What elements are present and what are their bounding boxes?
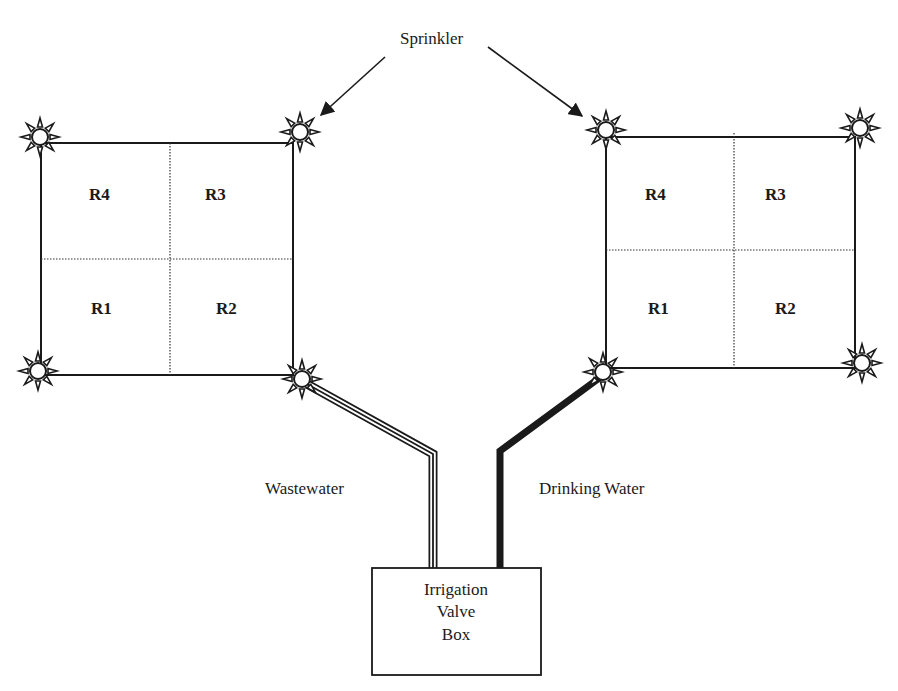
drinking-water-label: Drinking Water <box>539 479 645 498</box>
region-r4: R4 <box>89 185 110 204</box>
sprinkler-icon <box>281 113 319 151</box>
region-r3: R3 <box>765 185 786 204</box>
sprinkler-arrow-right <box>488 47 582 116</box>
region-r1: R1 <box>648 299 669 318</box>
region-r2: R2 <box>216 299 237 318</box>
sprinkler-icon <box>584 353 622 391</box>
region-r2: R2 <box>775 299 796 318</box>
sprinkler-arrow-left <box>321 57 385 115</box>
drinking-water-pipe <box>500 376 602 568</box>
plot-frame <box>606 137 855 368</box>
region-r1: R1 <box>91 299 112 318</box>
region-r3: R3 <box>205 185 226 204</box>
wastewater-plot: R4 R3 R1 R2 <box>19 113 319 390</box>
drinking-water-plot: R4 R3 R1 R2 <box>587 109 881 382</box>
wastewater-pipe <box>307 384 433 568</box>
sprinkler-icon <box>19 352 57 390</box>
irrigation-diagram: Sprinkler R4 R3 R1 R2 R4 R3 R1 R2 <box>0 0 898 691</box>
sprinkler-icon <box>587 111 625 149</box>
valve-box-line-1: Irrigation <box>424 580 489 599</box>
valve-box-line-2: Valve <box>437 602 476 621</box>
sprinkler-label: Sprinkler <box>400 29 464 48</box>
wastewater-label: Wastewater <box>265 479 344 498</box>
sprinkler-icon <box>283 360 321 398</box>
valve-box-line-3: Box <box>442 625 471 644</box>
sprinkler-icon <box>841 109 879 147</box>
region-r4: R4 <box>645 185 666 204</box>
irrigation-valve-box: Irrigation Valve Box <box>372 568 541 675</box>
sprinkler-icon <box>843 344 881 382</box>
sprinkler-icon <box>21 118 59 156</box>
